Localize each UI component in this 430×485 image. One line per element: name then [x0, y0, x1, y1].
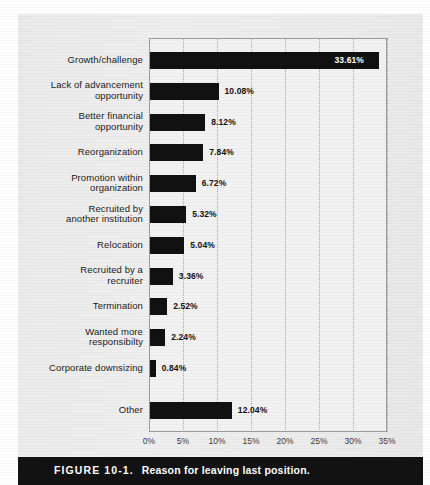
bar-value-label: 3.36%: [179, 268, 204, 285]
bar: [150, 144, 203, 161]
x-tick-label: 10%: [208, 436, 225, 446]
category-label: Other: [0, 405, 143, 416]
bar: [150, 360, 156, 377]
category-label: Reorganization: [0, 147, 143, 158]
x-tick-label: 20%: [276, 436, 293, 446]
x-tick-label: 35%: [378, 436, 395, 446]
bar: [150, 402, 232, 419]
category-label: Wanted more responsibilty: [0, 327, 143, 348]
bar-value-label: 2.24%: [171, 329, 196, 346]
bar-value-label: 33.61%: [335, 52, 364, 69]
x-tick-label: 30%: [344, 436, 361, 446]
bar-value-label: 2.52%: [173, 298, 198, 315]
figure-title: Reason for leaving last position.: [142, 464, 310, 476]
category-label: Recruited by a recruiter: [0, 265, 143, 286]
bar: [150, 298, 167, 315]
bar-value-label: 12.04%: [238, 402, 267, 419]
bar-value-label: 6.72%: [202, 175, 227, 192]
category-label: Growth/challenge: [0, 55, 143, 66]
bar: [150, 114, 205, 131]
x-tick-label: 25%: [310, 436, 327, 446]
gridline: [387, 38, 388, 432]
x-tick-label: 5%: [177, 436, 189, 446]
bar-value-label: 7.84%: [209, 144, 234, 161]
category-label: Lack of advancement opportunity: [0, 80, 143, 101]
bar-chart: Growth/challengeLack of advancement oppo…: [0, 0, 430, 440]
bar: [150, 175, 196, 192]
category-label: Promotion within organization: [0, 173, 143, 194]
figure-page: Growth/challengeLack of advancement oppo…: [0, 0, 430, 485]
bar-value-label: 5.04%: [190, 237, 215, 254]
category-label: Recruited by another institution: [0, 204, 143, 225]
gridline: [285, 38, 286, 432]
figure-caption: FIGURE 10-1.Reason for leaving last posi…: [54, 464, 310, 476]
bar: [150, 237, 184, 254]
bar: [150, 206, 186, 223]
gridline: [353, 38, 354, 432]
x-axis: 0%5%10%15%20%25%30%35%: [149, 436, 387, 450]
figure-number: FIGURE 10-1.: [54, 464, 134, 476]
bar-value-label: 8.12%: [211, 114, 236, 131]
bar: [150, 329, 165, 346]
category-label: Corporate downsizing: [0, 363, 143, 374]
bar: [150, 83, 219, 100]
bar-value-label: 5.32%: [192, 206, 217, 223]
category-label: Termination: [0, 301, 143, 312]
bar-value-label: 0.84%: [162, 360, 187, 377]
category-label: Better financial opportunity: [0, 111, 143, 132]
x-tick-label: 0%: [143, 436, 155, 446]
bar: [150, 268, 173, 285]
bar-value-label: 10.08%: [225, 83, 254, 100]
gridline: [319, 38, 320, 432]
category-label: Relocation: [0, 240, 143, 251]
x-tick-label: 15%: [242, 436, 259, 446]
figure-caption-bar: FIGURE 10-1.Reason for leaving last posi…: [18, 457, 423, 485]
